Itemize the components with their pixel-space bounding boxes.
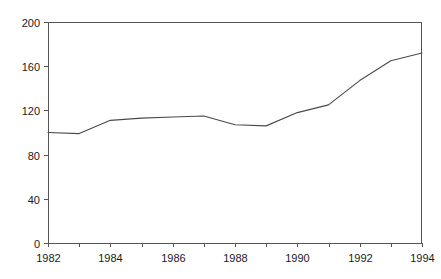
chart-background — [0, 0, 441, 279]
x-tick-label: 1992 — [348, 252, 372, 264]
line-chart: 04080120160200 1982198419861988199019921… — [0, 0, 441, 279]
x-tick-label: 1982 — [36, 252, 60, 264]
x-tick-label: 1986 — [161, 252, 185, 264]
x-tick-label: 1984 — [98, 252, 122, 264]
y-tick-label: 40 — [28, 194, 40, 206]
x-tick-label: 1994 — [410, 252, 434, 264]
chart-canvas: 04080120160200 1982198419861988199019921… — [0, 0, 441, 279]
x-tick-label: 1988 — [223, 252, 247, 264]
y-tick-label: 80 — [28, 150, 40, 162]
x-tick-label: 1990 — [285, 252, 309, 264]
y-tick-label: 120 — [22, 105, 40, 117]
y-tick-label: 160 — [22, 61, 40, 73]
y-tick-label: 200 — [22, 17, 40, 29]
y-tick-label: 0 — [34, 238, 40, 250]
